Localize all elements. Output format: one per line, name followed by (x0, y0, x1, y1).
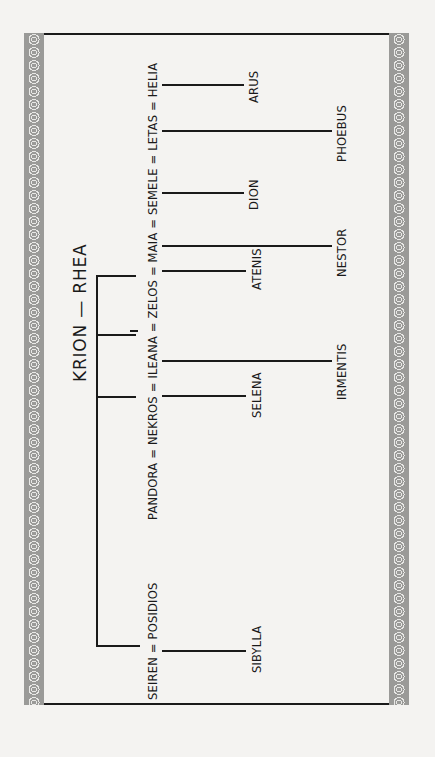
tree-title: KRION — RHEA (70, 244, 90, 382)
child-arus: ARUS (247, 71, 261, 103)
child-dion: DION (247, 179, 261, 210)
child-irmentis: IRMENTIS (335, 344, 349, 401)
child-line-selena (162, 395, 246, 397)
child-line-nestor (162, 245, 332, 247)
couples-upper-text: PANDORA = NEKROS = ILEANA = ZELOS = MAIA… (146, 63, 160, 520)
root-vertical-connector (96, 275, 98, 646)
family-tree-page: KRION — RHEA PANDORA = NEKROS = ILEANA =… (0, 0, 435, 757)
child-line-phoebus (162, 130, 332, 132)
child-atenis: ATENIS (250, 248, 264, 290)
child-line-atenis (162, 270, 246, 272)
child-line-sibylla (162, 650, 246, 652)
child-sibylla: SIBYLLA (250, 626, 264, 673)
root-branch-tick-2 (96, 334, 136, 336)
child-line-dion (162, 192, 244, 194)
child-selena: SELENA (250, 372, 264, 418)
child-phoebus: PHOEBUS (335, 105, 349, 162)
child-line-arus (162, 84, 244, 86)
root-branch-tick-3 (96, 396, 136, 398)
frame-bottom-rule (44, 703, 389, 705)
root-branch-tick-4 (96, 645, 140, 647)
root-branch-tick-1 (96, 275, 136, 277)
couples-lower-text: SEIREN = POSIDIOS (146, 583, 160, 700)
frame-top-rule (44, 33, 389, 35)
child-nestor: NESTOR (335, 229, 349, 277)
left-spiral-border (24, 33, 44, 705)
child-line-irmentis (162, 360, 332, 362)
title-bracket-tick-a (130, 330, 138, 332)
right-spiral-border (389, 33, 409, 705)
